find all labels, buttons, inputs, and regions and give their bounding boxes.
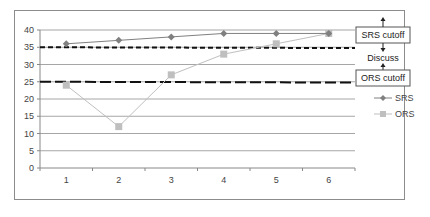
series-srs	[63, 30, 333, 47]
y-tick-label: 40	[24, 25, 34, 35]
y-axis: 0510152025303540	[24, 25, 40, 173]
y-tick-label: 0	[29, 163, 34, 173]
y-tick-label: 15	[24, 111, 34, 121]
data-point	[63, 40, 70, 47]
y-tick-label: 10	[24, 129, 34, 139]
y-tick-label: 5	[29, 146, 34, 156]
legend-item-ors: ORS	[374, 109, 415, 119]
data-point	[168, 71, 175, 78]
x-tick-label: 4	[221, 175, 226, 185]
legend-srs-label: SRS	[395, 93, 414, 103]
data-point	[115, 37, 122, 44]
data-point	[273, 40, 280, 47]
data-point	[273, 30, 280, 37]
x-tick-label: 2	[116, 175, 121, 185]
data-series	[63, 30, 333, 130]
x-tick-label: 5	[274, 175, 279, 185]
y-tick-label: 30	[24, 60, 34, 70]
y-tick-label: 35	[24, 42, 34, 52]
legend-ors-label: ORS	[395, 109, 415, 119]
arrow-down-icon	[381, 43, 386, 52]
legend: SRS ORS	[374, 93, 415, 119]
srs-cutoff-annotation: SRS cutoff	[356, 27, 410, 43]
arrow-up-icon	[381, 17, 386, 27]
series-ors	[63, 30, 333, 130]
x-tick-label: 1	[64, 175, 69, 185]
line-chart: 0510152025303540 123456 SRS cutoff Discu…	[0, 0, 430, 217]
data-point	[115, 123, 122, 130]
srs-cutoff-label: SRS cutoff	[362, 30, 405, 40]
x-tick-label: 3	[169, 175, 174, 185]
diamond-marker-icon	[380, 95, 386, 101]
x-axis: 123456	[40, 168, 355, 185]
y-tick-label: 20	[24, 94, 34, 104]
data-point	[63, 82, 70, 89]
legend-item-srs: SRS	[374, 93, 414, 103]
ors-cutoff-annotation: ORS cutoff	[356, 70, 410, 86]
arrow-up-icon	[381, 63, 386, 70]
data-point	[220, 30, 227, 37]
x-tick-label: 6	[326, 175, 331, 185]
data-point	[168, 33, 175, 40]
data-point	[220, 51, 227, 58]
ors-cutoff-label: ORS cutoff	[361, 73, 405, 83]
y-tick-label: 25	[24, 77, 34, 87]
square-marker-icon	[380, 111, 386, 117]
discuss-label: Discuss	[367, 53, 399, 63]
